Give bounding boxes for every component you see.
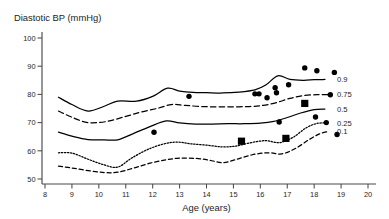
y-axis-tick-label: 50: [27, 175, 35, 184]
y-axis-tick-label: 70: [27, 118, 35, 127]
x-axis-tick-label: 14: [202, 190, 210, 199]
series-label-0-9: 0.9: [337, 75, 348, 84]
data-point-square: [301, 100, 308, 107]
quantile-curves-layer: [58, 76, 327, 173]
series-label-0-25: 0.25: [337, 119, 352, 128]
data-point-circle: [186, 94, 191, 99]
data-point-circle: [272, 85, 277, 90]
quantile-chart: 5060708090100891011121314151617181920Dia…: [0, 0, 389, 219]
series-label-0-5: 0.5: [337, 105, 348, 114]
x-axis-tick-label: 18: [310, 190, 318, 199]
x-axis-tick-label: 16: [256, 190, 264, 199]
x-axis-tick-label: 19: [337, 190, 345, 199]
data-point-circle: [314, 68, 319, 73]
data-point-circle: [313, 114, 318, 119]
data-point-circle: [302, 65, 307, 70]
data-point-circle: [328, 92, 333, 97]
data-point-circle: [286, 82, 291, 87]
data-point-circle: [274, 90, 279, 95]
data-point-circle: [324, 120, 329, 125]
y-axis-tick-label: 90: [27, 62, 35, 71]
chart-text-layer: 5060708090100891011121314151617181920Dia…: [14, 12, 372, 213]
x-axis-tick-label: 9: [70, 190, 74, 199]
data-point-circle: [264, 95, 269, 100]
series-label-0-75: 0.75: [337, 90, 352, 99]
chart-container: 5060708090100891011121314151617181920Dia…: [0, 0, 389, 219]
x-axis-tick-label: 15: [229, 190, 237, 199]
x-axis-tick-label: 12: [149, 190, 157, 199]
y-axis-tick-label: 100: [23, 34, 35, 43]
data-point-circle: [256, 91, 261, 96]
x-axis-tick-label: 8: [43, 190, 47, 199]
chart-title: Diastotic BP (mmHg): [14, 12, 101, 23]
quantile-curve-0-25: [58, 123, 327, 168]
x-axis-tick-label: 10: [95, 190, 103, 199]
x-axis-tick-label: 11: [122, 190, 130, 199]
data-point-square: [282, 135, 289, 142]
axes-layer: [38, 32, 377, 189]
series-label-0-1: 0.1: [337, 127, 348, 136]
x-axis-title: Age (years): [182, 202, 230, 213]
data-point-circle: [151, 129, 156, 134]
quantile-curve-0-9: [58, 76, 324, 111]
data-point-square: [238, 138, 245, 145]
x-axis-tick-label: 13: [175, 190, 183, 199]
y-axis-tick-label: 80: [27, 90, 35, 99]
data-point-circle: [276, 119, 281, 124]
x-axis-tick-label: 17: [283, 190, 291, 199]
x-axis-tick-label: 20: [364, 190, 372, 199]
y-axis-tick-label: 60: [27, 147, 35, 156]
